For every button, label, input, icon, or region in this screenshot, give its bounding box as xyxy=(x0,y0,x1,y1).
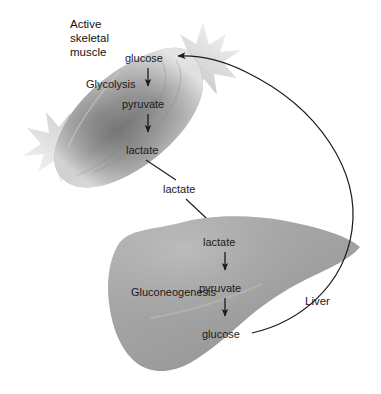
muscle-title-line1: Active xyxy=(70,18,101,30)
muscle-glucose-label: glucose xyxy=(125,52,163,64)
blood-lactate-label: lactate xyxy=(163,183,195,195)
liver-glucose-label: glucose xyxy=(202,328,240,340)
gluconeogenesis-label: Gluconeogenesis xyxy=(131,286,217,298)
muscle-title-line2: skeletal xyxy=(70,32,109,44)
muscle-title-line3: muscle xyxy=(70,46,106,58)
muscle-pyruvate-label: pyruvate xyxy=(122,98,164,110)
muscle-lactate-label: lactate xyxy=(126,144,158,156)
cori-cycle-diagram: Active skeletal muscle glucose Glycolysi… xyxy=(0,0,381,394)
liver-lactate-label: lactate xyxy=(203,236,235,248)
diagram-canvas: Active skeletal muscle glucose Glycolysi… xyxy=(0,0,381,394)
glycolysis-label: Glycolysis xyxy=(86,78,136,90)
